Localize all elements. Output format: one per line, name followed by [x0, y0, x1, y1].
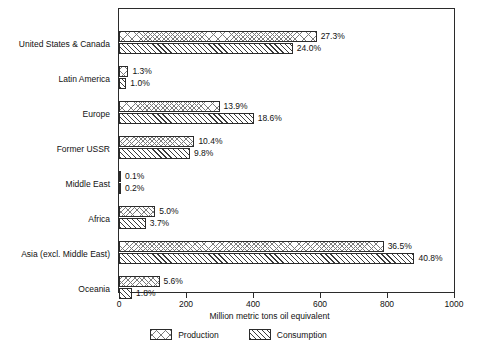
category-label-latin-america: Latin America: [0, 74, 110, 84]
category-label-europe: Europe: [0, 109, 110, 119]
data-label-consumption-oceania: 1.8%: [136, 288, 155, 298]
bar-production-asia: [119, 241, 384, 252]
data-label-production-middle-east: 0.1%: [125, 171, 144, 181]
bar-production-former-ussr: [119, 136, 194, 147]
legend-item-production: Production: [150, 329, 219, 340]
x-tick-mark: [387, 293, 388, 298]
data-label-consumption-africa: 3.7%: [150, 218, 169, 228]
bar-production-europe: [119, 101, 220, 112]
x-tick-label: 200: [179, 299, 193, 309]
data-label-consumption-united-states-canada: 24.0%: [297, 43, 321, 53]
bar-consumption-former-ussr: [119, 148, 190, 159]
data-label-production-oceania: 5.6%: [164, 276, 183, 286]
legend: Production Consumption: [0, 329, 477, 340]
category-axis-labels: United States & Canada Latin America Eur…: [0, 8, 114, 293]
legend-label-consumption: Consumption: [277, 330, 327, 340]
production-swatch-icon: [150, 329, 172, 340]
category-label-former-ussr: Former USSR: [0, 144, 110, 154]
category-label-united-states-canada: United States & Canada: [0, 39, 110, 49]
category-label-middle-east: Middle East: [0, 179, 110, 189]
x-tick-mark: [186, 293, 187, 298]
data-label-consumption-europe: 18.6%: [258, 113, 282, 123]
legend-label-production: Production: [178, 330, 219, 340]
bar-consumption-middle-east: [119, 183, 121, 194]
x-tick-label: 400: [246, 299, 260, 309]
x-tick-mark: [253, 293, 254, 298]
legend-item-consumption: Consumption: [249, 329, 327, 340]
data-label-production-united-states-canada: 27.3%: [321, 31, 345, 41]
x-tick-mark: [119, 293, 120, 298]
x-tick-label: 600: [313, 299, 327, 309]
data-label-production-former-ussr: 10.4%: [198, 136, 222, 146]
category-label-oceania: Oceania: [0, 284, 110, 294]
x-tick-label: 800: [380, 299, 394, 309]
x-tick-label: 0: [117, 299, 122, 309]
x-tick-mark: [454, 293, 455, 298]
data-label-production-latin-america: 1.3%: [132, 66, 151, 76]
bar-production-oceania: [119, 276, 160, 287]
bar-production-latin-america: [119, 66, 128, 77]
data-label-consumption-latin-america: 1.0%: [130, 78, 149, 88]
bar-consumption-united-states-canada: [119, 43, 293, 54]
data-label-consumption-former-ussr: 9.8%: [194, 148, 213, 158]
data-label-consumption-middle-east: 0.2%: [125, 183, 144, 193]
bars-layer: 27.3% 24.0% 1.3% 1.0% 13.9% 18.6% 10.4% …: [119, 9, 454, 292]
bar-production-africa: [119, 206, 155, 217]
x-tick-mark: [320, 293, 321, 298]
bar-consumption-africa: [119, 218, 146, 229]
category-label-asia: Asia (excl. Middle East): [0, 249, 110, 259]
x-tick-label: 1000: [445, 299, 464, 309]
consumption-swatch-icon: [249, 329, 271, 340]
data-label-consumption-asia: 40.8%: [418, 253, 442, 263]
bar-production-middle-east: [119, 171, 121, 182]
data-label-production-europe: 13.9%: [224, 101, 248, 111]
x-axis-title: Million metric tons oil equivalent: [0, 311, 477, 321]
category-label-africa: Africa: [0, 214, 110, 224]
bar-consumption-latin-america: [119, 78, 126, 89]
data-label-production-asia: 36.5%: [388, 241, 412, 251]
bar-production-united-states-canada: [119, 31, 317, 42]
data-label-production-africa: 5.0%: [159, 206, 178, 216]
bar-consumption-asia: [119, 253, 414, 264]
bar-consumption-europe: [119, 113, 254, 124]
bar-chart: United States & Canada Latin America Eur…: [0, 0, 477, 350]
bar-consumption-oceania: [119, 288, 132, 299]
